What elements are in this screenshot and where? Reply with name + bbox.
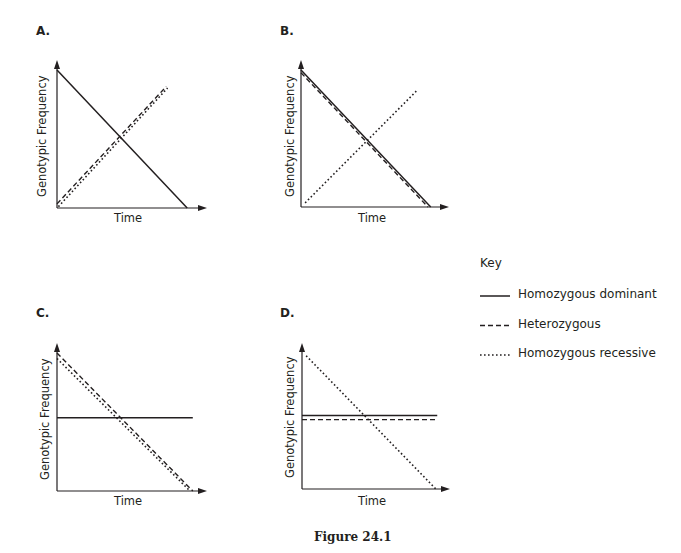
panel-a-line-homozygous-recessive <box>58 88 167 207</box>
panel-a-line-heterozygous <box>57 87 166 204</box>
key-label-homozygous-dominant: Homozygous dominant <box>518 287 657 301</box>
panel-a-y-axis-arrow-icon <box>54 60 60 69</box>
panel-a-x-axis-title: Time <box>114 211 142 225</box>
panel-d-y-axis-arrow-icon <box>299 343 305 352</box>
panel-d-label: D. <box>280 306 295 320</box>
panel-b-x-axis-arrow-icon <box>440 204 449 210</box>
panel-a-x-axis-arrow-icon <box>198 205 207 211</box>
panel-c-line-heterozygous <box>57 353 193 491</box>
key-label-heterozygous: Heterozygous <box>518 317 601 331</box>
figure-caption: Figure 24.1 <box>314 530 392 544</box>
panel-d-x-axis-title: Time <box>358 494 386 508</box>
panel-b-y-axis-arrow-icon <box>298 60 304 69</box>
plots-canvas <box>0 0 681 553</box>
panel-c-y-axis-arrow-icon <box>54 343 60 352</box>
panel-b-label: B. <box>280 24 294 38</box>
key-title: Key <box>480 256 502 270</box>
panel-b-x-axis-title: Time <box>358 211 386 225</box>
panel-d-y-axis-title: Genotypic Frequency <box>283 356 297 478</box>
panel-c-x-axis-title: Time <box>114 494 142 508</box>
panel-b-line-heterozygous <box>301 73 428 207</box>
panel-c-x-axis-arrow-icon <box>198 488 207 494</box>
panel-c-label: C. <box>36 306 49 320</box>
panel-d-x-axis-arrow-icon <box>441 486 450 492</box>
panel-c-line-homozygous-recessive <box>57 359 190 491</box>
panel-b-line-homozygous-recessive <box>305 91 417 203</box>
panel-c-y-axis-title: Genotypic Frequency <box>38 358 52 480</box>
panel-a-label: A. <box>36 24 50 38</box>
panel-d-line-homozygous-recessive <box>306 356 436 489</box>
panel-a-line-homozygous-dominant <box>57 70 187 208</box>
panel-b-y-axis-title: Genotypic Frequency <box>283 75 297 197</box>
panel-b-line-homozygous-dominant <box>301 70 431 207</box>
panel-a-y-axis-title: Genotypic Frequency <box>35 75 49 197</box>
key-label-homozygous-recessive: Homozygous recessive <box>518 346 656 360</box>
figure-24-1: A. Genotypic Frequency Time B. Genotypic… <box>0 0 681 553</box>
